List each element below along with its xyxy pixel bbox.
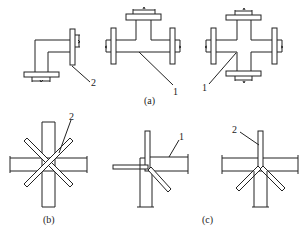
caption-c: (c) [202, 214, 213, 226]
callout-label: 1 [173, 86, 178, 97]
callout-label: 1 [179, 131, 184, 142]
weld-branch-c-left: 1 [113, 131, 188, 207]
cross-fitting: 1 [202, 8, 283, 93]
callout-label: 1 [202, 82, 207, 93]
callout-label: 2 [91, 77, 96, 88]
caption-b: (b) [43, 214, 55, 226]
weld-cross-b: 2 (b) [10, 111, 87, 226]
tee-fitting: 1 (a) [105, 7, 181, 107]
weld-branch-c-right: 2 (c) [202, 124, 298, 226]
pipe-fittings-diagram: 2 1 (a) 1 2 (b) [0, 0, 305, 235]
elbow-fitting: 2 [24, 29, 96, 88]
caption-a: (a) [144, 95, 155, 107]
callout-label: 2 [69, 111, 74, 122]
callout-label: 2 [232, 124, 237, 135]
